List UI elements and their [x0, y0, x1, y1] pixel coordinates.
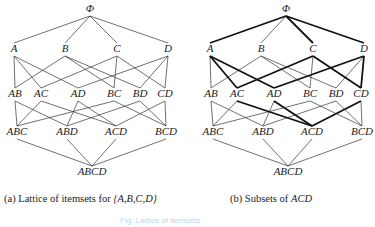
edge-ac-c — [237, 56, 313, 88]
edge-bcd-bd — [336, 101, 362, 126]
node-phi: Φ — [282, 2, 291, 14]
node-c: C — [309, 42, 317, 54]
edge-abc-bc — [17, 101, 114, 126]
edge-ac-a — [14, 56, 41, 88]
edge-d-phi — [286, 16, 364, 43]
node-cd: CD — [157, 87, 172, 99]
edge-acd-ad — [274, 101, 312, 126]
edge-ac-c — [41, 56, 117, 88]
node-acd: ACD — [104, 125, 127, 137]
node-a: A — [10, 42, 18, 54]
edge-bc-b — [65, 56, 114, 88]
edge-abd-ab — [211, 101, 263, 126]
node-bcd: BCD — [155, 125, 177, 137]
node-bc: BC — [107, 87, 122, 99]
figure-footer-text: Fig. Lattice of itemsets — [120, 216, 200, 225]
edge-ad-a — [210, 56, 274, 88]
edge-bcd-cd — [361, 101, 362, 126]
edge-acd-ad — [78, 101, 116, 126]
node-b: B — [62, 42, 69, 54]
node-ad: AD — [70, 87, 86, 99]
node-abcd: ABCD — [77, 165, 107, 177]
edge-abcd-abc — [213, 139, 288, 166]
node-c: C — [113, 42, 121, 54]
edge-abc-ab — [211, 101, 213, 126]
edge-bcd-bd — [140, 101, 166, 126]
edge-ab-b — [15, 56, 65, 88]
node-d: D — [359, 42, 368, 54]
node-abd: ABD — [251, 125, 273, 137]
edge-d-phi — [90, 16, 168, 43]
node-b: B — [258, 42, 265, 54]
node-a: A — [206, 42, 214, 54]
edge-bd-b — [65, 56, 140, 88]
edge-cd-d — [165, 56, 168, 88]
edge-abcd-bcd — [288, 139, 362, 166]
edge-ab-a — [14, 56, 15, 88]
edge-ab-a — [210, 56, 211, 88]
caption-b: (b) Subsets of ACD — [230, 193, 312, 205]
edge-a-phi — [14, 16, 90, 43]
node-abcd: ABCD — [273, 165, 303, 177]
node-abd: ABD — [55, 125, 77, 137]
edge-cd-c — [117, 56, 165, 88]
edge-abd-ad — [67, 101, 78, 126]
edge-abc-bc — [213, 101, 310, 126]
node-abc: ABC — [202, 125, 224, 137]
edge-ad-d — [78, 56, 168, 88]
node-bcd: BCD — [351, 125, 373, 137]
node-ac: AC — [229, 87, 245, 99]
edge-abc-ac — [17, 101, 41, 126]
panel-subsets-acd: ΦABCDABACADBCBDCDABCABDACDBCDABCD — [202, 2, 373, 177]
node-ab: AB — [203, 87, 218, 99]
edge-abcd-abd — [263, 139, 288, 166]
edge-bc-c — [310, 56, 313, 88]
edge-abcd-abc — [17, 139, 92, 166]
node-ad: AD — [266, 87, 282, 99]
node-acd: ACD — [300, 125, 323, 137]
edge-bcd-cd — [165, 101, 166, 126]
edge-cd-d — [361, 56, 364, 88]
node-cd: CD — [353, 87, 368, 99]
edge-ac-a — [210, 56, 237, 88]
edge-c-phi — [90, 16, 117, 43]
edge-ad-a — [14, 56, 78, 88]
node-bd: BD — [329, 87, 344, 99]
panel-lattice-full: ΦABCDABACADBCBDCDABCABDACDBCDABCD — [6, 2, 177, 177]
edge-abc-ab — [15, 101, 17, 126]
caption-a: (a) Lattice of itemsets for {A,B,C,D} — [4, 193, 158, 205]
edge-bc-c — [114, 56, 117, 88]
edge-abc-ac — [213, 101, 237, 126]
node-ab: AB — [7, 87, 22, 99]
edge-bd-b — [261, 56, 336, 88]
node-bd: BD — [133, 87, 148, 99]
edge-a-phi — [210, 16, 286, 43]
node-abc: ABC — [6, 125, 28, 137]
edge-abcd-bcd — [92, 139, 166, 166]
itemset-lattice-diagram: ΦABCDABACADBCBDCDABCABDACDBCDABCD ΦABCDA… — [0, 0, 375, 227]
edge-b-phi — [65, 16, 90, 43]
node-d: D — [163, 42, 172, 54]
node-ac: AC — [33, 87, 49, 99]
node-phi: Φ — [86, 2, 95, 14]
edge-abcd-abd — [67, 139, 92, 166]
edge-abd-ab — [15, 101, 67, 126]
node-bc: BC — [303, 87, 318, 99]
